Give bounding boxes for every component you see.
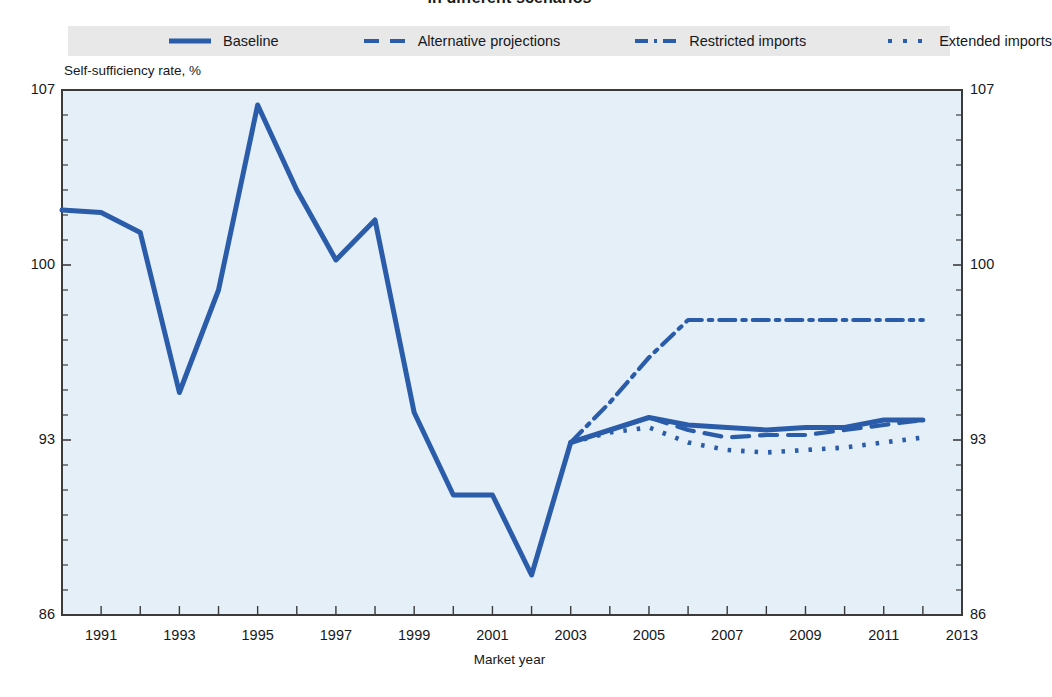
y-tick-label-left: 93 (9, 431, 55, 447)
y-tick-label-left: 107 (9, 81, 55, 97)
y-tick-label-right: 100 (970, 256, 1016, 272)
x-tick-label: 1995 (230, 627, 286, 643)
x-tick-label: 2001 (464, 627, 520, 643)
x-tick-label: 1991 (73, 627, 129, 643)
x-tick-label: 2011 (856, 627, 912, 643)
x-tick-label: 2003 (543, 627, 599, 643)
x-tick-label: 1999 (386, 627, 442, 643)
y-tick-label-right: 107 (970, 81, 1016, 97)
x-tick-label: 2013 (934, 627, 990, 643)
x-axis-title: Market year (0, 652, 1019, 667)
y-tick-label-left: 86 (9, 606, 55, 622)
y-tick-label-left: 100 (9, 256, 55, 272)
x-tick-label: 2005 (621, 627, 677, 643)
x-tick-label: 2007 (699, 627, 755, 643)
y-tick-label-right: 93 (970, 431, 1016, 447)
y-tick-label-right: 86 (970, 606, 1016, 622)
x-tick-label: 1997 (308, 627, 364, 643)
x-tick-label: 2009 (777, 627, 833, 643)
x-tick-label: 1993 (151, 627, 207, 643)
